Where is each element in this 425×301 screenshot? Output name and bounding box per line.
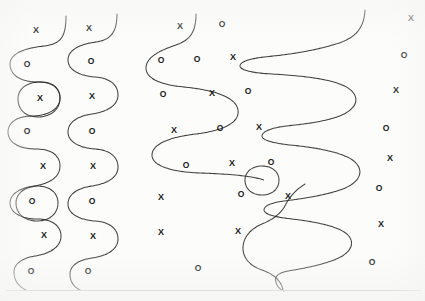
marker-x: X (209, 89, 215, 98)
marker-x: X (86, 24, 92, 33)
marker-o: O (89, 127, 96, 136)
marker-x: X (177, 22, 183, 31)
marker-x: X (33, 26, 39, 35)
marker-o: O (85, 267, 92, 276)
marker-o: O (245, 87, 252, 96)
marker-o: O (158, 56, 165, 65)
marker-x: X (229, 159, 235, 168)
marker-o: O (88, 57, 95, 66)
marker-x: X (158, 193, 164, 202)
marker-x: X (40, 162, 46, 171)
marker-o: O (194, 55, 201, 64)
marker-o: O (383, 124, 390, 133)
marker-x: X (158, 228, 164, 237)
scanned-diagram-page: XOXOXOXOXOXOXOXOXOOOXOXOXOXOXOXOXXXOXOXO… (0, 0, 425, 301)
marker-x: X (37, 94, 43, 103)
marker-o: O (268, 158, 275, 167)
marker-x: X (378, 220, 384, 229)
marker-o: O (369, 258, 376, 267)
footer-rule (6, 290, 421, 291)
marker-o: O (376, 184, 383, 193)
marker-layer: XOXOXOXOXOXOXOXOXOOOXOXOXOXOXOXOXXXOXOXO… (0, 0, 425, 301)
marker-o: O (89, 197, 96, 206)
marker-x: X (171, 126, 177, 135)
marker-o: O (401, 51, 408, 60)
marker-o: O (24, 60, 31, 69)
marker-o: O (183, 161, 190, 170)
marker-x: X (256, 123, 262, 132)
marker-x: X (393, 86, 399, 95)
marker-o: O (219, 20, 226, 29)
marker-x: X (41, 231, 47, 240)
marker-o: O (160, 90, 167, 99)
marker-o: O (24, 127, 31, 136)
marker-x: X (230, 53, 236, 62)
marker-o: O (238, 190, 245, 199)
marker-x: X (285, 192, 291, 201)
marker-o: O (28, 267, 35, 276)
marker-x: X (408, 14, 414, 23)
marker-o: O (29, 197, 36, 206)
marker-x: X (235, 227, 241, 236)
marker-x: X (90, 232, 96, 241)
marker-x: X (90, 162, 96, 171)
marker-x: X (89, 92, 95, 101)
marker-o: O (195, 264, 202, 273)
marker-x: X (387, 154, 393, 163)
marker-o: O (217, 124, 224, 133)
